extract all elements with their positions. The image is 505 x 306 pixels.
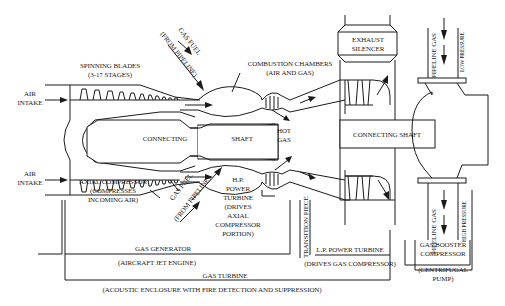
label-pump: PUMP): [433, 275, 455, 283]
label-gas: GAS: [277, 136, 291, 144]
label-combustion-chambers: COMBUSTION CHAMBERS: [248, 60, 333, 68]
label-air-intake-top-2: INTAKE: [18, 99, 43, 107]
label-portion: PORTION): [222, 230, 254, 238]
label-hp: H.P.: [232, 176, 244, 184]
label-air-intake-top: AIR: [24, 90, 36, 98]
label-transition-piece: TRANSITION PIECE: [302, 196, 310, 258]
label-booster-compressor: COMPRESSOR: [420, 250, 466, 258]
label-incoming-air: INCOMING AIR): [88, 196, 139, 204]
label-drives-gas-compressor: (DRIVES GAS COMPRESSOR): [304, 260, 396, 268]
label-acoustic-enclosure: (ACOUSTIC ENCLOSURE WITH FIRE DETECTION …: [102, 286, 322, 294]
label-exhaust: EXHAUST: [352, 36, 385, 44]
label-hot: HOT: [277, 127, 292, 135]
label-air-intake-bottom: AIR: [24, 170, 36, 178]
gas-turbine-diagram: SPINNING BLADES (3-17 STAGES) AIR INTAKE…: [0, 0, 505, 306]
label-shaft: SHAFT: [231, 135, 253, 143]
label-turbine: TURBINE: [223, 194, 253, 202]
combustion-chamber-top: [180, 87, 290, 117]
label-gas-booster: GAS BOOSTER: [420, 241, 467, 249]
label-axial-compressor: AXIAL COMPRESSOR: [79, 178, 147, 186]
label-compressor: COMPRESSOR: [215, 221, 261, 229]
label-silencer: SILENCER: [352, 45, 385, 53]
label-connecting: CONNECTING: [143, 135, 188, 143]
label-axial: AXIAL: [227, 212, 248, 220]
label-power: POWER: [226, 185, 250, 193]
label-lp-power-turbine: L.P. POWER TURBINE: [316, 246, 383, 254]
label-low-pressure: LOW PRESSURE: [459, 31, 465, 72]
label-connecting-shaft: CONNECTING SHAFT: [353, 131, 422, 139]
label-compresses: (COMPRESSES: [90, 187, 136, 195]
label-air-and-gas: (AIR AND GAS): [266, 69, 314, 77]
label-spinning-blades: SPINNING BLADES: [80, 62, 140, 70]
label-centrifugal: (CENTRIFUGAL: [418, 266, 468, 274]
label-gas-generator: GAS GENERATOR: [135, 245, 191, 253]
label-stages: (3-17 STAGES): [88, 71, 133, 79]
label-drives: (DRIVES: [225, 203, 252, 211]
label-aircraft-jet-engine: (AIRCRAFT JET ENGINE): [118, 259, 197, 267]
label-high-pressure: HIGH PRESSURE: [461, 200, 467, 242]
label-pipeline-gas-top: PIPELINE GAS: [430, 33, 438, 78]
compressor-blades-top: [70, 89, 180, 100]
label-air-intake-bottom-2: INTAKE: [18, 179, 43, 187]
label-gas-turbine: GAS TURBINE: [203, 272, 248, 280]
label-from-pipeline-top: (FROM PIPELINE): [158, 30, 199, 79]
